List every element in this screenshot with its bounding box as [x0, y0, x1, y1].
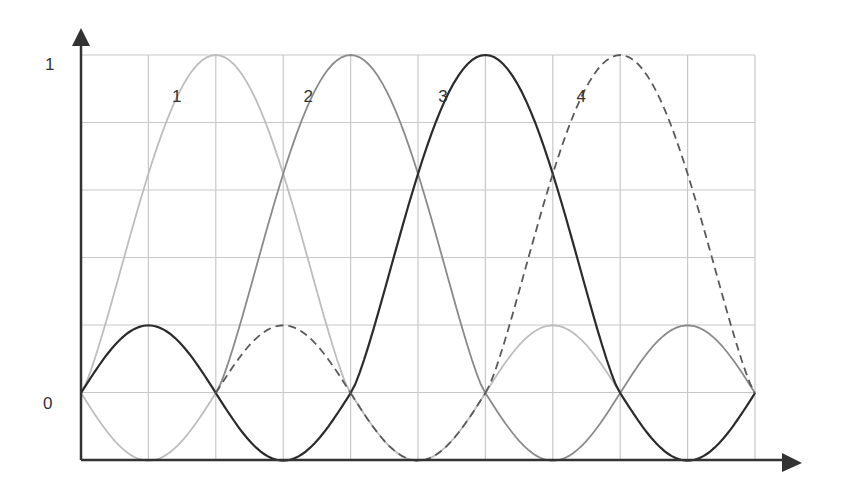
y-axis-arrow-icon [72, 28, 90, 46]
chart: 1 0 1234 [0, 0, 845, 497]
y-tick-label-zero: 0 [43, 394, 52, 413]
curve-label-3: 3 [438, 87, 447, 106]
grid [81, 55, 755, 460]
curve-label-4: 4 [576, 87, 585, 106]
curve-label-1: 1 [172, 87, 181, 106]
y-tick-label-one: 1 [45, 55, 54, 74]
curve-label-2: 2 [303, 87, 312, 106]
x-axis-arrow-icon [782, 453, 802, 472]
axes [72, 28, 802, 472]
